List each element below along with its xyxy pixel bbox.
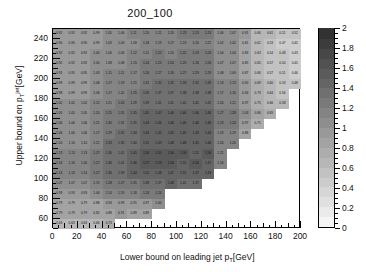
- cell-value: 0.95: [78, 72, 90, 75]
- heatmap-cell: 1.19: [152, 39, 164, 49]
- heatmap-cell: 1.19: [115, 189, 127, 199]
- heatmap-cell: 1.56: [140, 149, 152, 159]
- x-tick: [83, 225, 84, 228]
- cell-value: 1.11: [127, 32, 139, 35]
- heatmap-cell: 1.37: [165, 89, 177, 99]
- heatmap-cell: 1.27: [90, 169, 102, 179]
- cell-value: 1.31: [140, 82, 152, 85]
- heatmap-cell: 1.24: [140, 59, 152, 69]
- heatmap-cell: 1.33: [103, 139, 115, 149]
- cell-value: 1.20: [115, 92, 127, 95]
- heatmap-cell: 0.92: [78, 49, 90, 59]
- cell-value: 1.27: [90, 162, 102, 165]
- x-tick: [201, 221, 202, 228]
- cell-value: 1.25: [152, 62, 164, 65]
- heatmap-cell: 1.24: [140, 189, 152, 199]
- cell-value: 1.23: [189, 32, 201, 35]
- cell-value: 1.03: [115, 42, 127, 45]
- cell-value: 0.75: [251, 102, 263, 105]
- cell-value: 0.88: [103, 212, 115, 215]
- cell-value: 1.21: [140, 52, 152, 55]
- cell-value: 0.92: [78, 32, 90, 35]
- heatmap-cell: 1.02: [227, 39, 239, 49]
- cell-value: 1.56: [177, 152, 189, 155]
- heatmap-cell: 1.29: [202, 69, 214, 79]
- heatmap-cell: 1.45: [152, 129, 164, 139]
- cell-value: 1.29: [202, 72, 214, 75]
- cell-value: 1.56: [202, 152, 214, 155]
- heatmap-cell: 1.14: [78, 169, 90, 179]
- z-tick: [335, 173, 338, 174]
- heatmap-cell: 1.17: [165, 39, 177, 49]
- heatmap-cell: 1.44: [140, 129, 152, 139]
- cell-value: 1.41: [115, 162, 127, 165]
- cell-value: 1.21: [227, 102, 239, 105]
- z-tick: [335, 48, 340, 49]
- x-tick: [114, 223, 115, 228]
- y-tick: [53, 63, 56, 64]
- heatmap-cell: 1.17: [127, 69, 139, 79]
- y-tick: [53, 103, 56, 104]
- y-tick: [53, 133, 56, 134]
- heatmap-cell: 1.16: [65, 159, 77, 169]
- cell-value: 1.39: [115, 172, 127, 175]
- cell-value: 0.92: [65, 62, 77, 65]
- cell-value: 1.14: [65, 172, 77, 175]
- heatmap-cell: 1.42: [202, 99, 214, 109]
- heatmap-cell: 1.12: [127, 49, 139, 59]
- heatmap-cell: 0.80: [251, 109, 263, 119]
- heatmap-cell: 1.35: [115, 139, 127, 149]
- cell-value: 1.11: [115, 72, 127, 75]
- cell-value: 0.66: [251, 72, 263, 75]
- heatmap-cell: 1.28: [103, 179, 115, 189]
- cell-value: 1.27: [90, 152, 102, 155]
- heatmap-cell: 0.97: [140, 199, 152, 209]
- z-tick: [335, 68, 340, 69]
- cell-value: 1.38: [177, 92, 189, 95]
- heatmap-cell: 1.57: [140, 159, 152, 169]
- heatmap-cell: 1.56: [189, 159, 201, 169]
- heatmap-cell: 1.38: [189, 89, 201, 99]
- y-tick: [53, 73, 56, 74]
- heatmap-cell: 1.27: [177, 69, 189, 79]
- cell-value: 1.53: [152, 162, 164, 165]
- heatmap-cell: 0.48: [289, 79, 301, 89]
- heatmap-cell: 0.92: [65, 49, 77, 59]
- cell-value: 1.52: [177, 162, 189, 165]
- y-tick: [53, 138, 60, 139]
- cell-value: 1.16: [127, 192, 139, 195]
- heatmap-cell: 1.23: [214, 119, 226, 129]
- cell-value: 1.07: [227, 32, 239, 35]
- cell-value: 1.35: [127, 112, 139, 115]
- heatmap-cell: 1.23: [189, 49, 201, 59]
- cell-value: 1.26: [202, 62, 214, 65]
- x-tick: [244, 225, 245, 228]
- cell-value: 0.69: [251, 82, 263, 85]
- heatmap-cell: 1.22: [177, 49, 189, 59]
- heatmap-cell: 1.46: [152, 119, 164, 129]
- heatmap-cell: 1.17: [103, 79, 115, 89]
- heatmap-cell: 1.14: [103, 189, 115, 199]
- color-band: [319, 118, 334, 129]
- cell-value: 1.13: [227, 82, 239, 85]
- x-tick: [275, 221, 276, 228]
- z-tick-label: 0: [342, 223, 347, 233]
- heatmap-cell: 1.46: [189, 119, 201, 129]
- cell-value: 1.11: [103, 72, 115, 75]
- heatmap-cell: 1.10: [78, 139, 90, 149]
- cell-value: 0.73: [251, 92, 263, 95]
- heatmap-cell: 1.24: [165, 59, 177, 69]
- cell-value: 1.48: [177, 142, 189, 145]
- heatmap-cell: 1.03: [90, 69, 102, 79]
- cell-value: 0.81: [239, 42, 251, 45]
- cell-value: 0.90: [78, 42, 90, 45]
- heatmap-cell: 1.05: [78, 109, 90, 119]
- heatmap-cell: 0.99: [78, 89, 90, 99]
- heatmap-cell: 1.34: [127, 129, 139, 139]
- cell-value: 1.24: [152, 192, 164, 195]
- heatmap-cell: 0.92: [65, 29, 77, 39]
- heatmap-cell: 1.32: [115, 129, 127, 139]
- cell-value: 0.45: [289, 62, 301, 65]
- heatmap-cell: 0.79: [78, 199, 90, 209]
- heatmap-cell: 1.02: [78, 99, 90, 109]
